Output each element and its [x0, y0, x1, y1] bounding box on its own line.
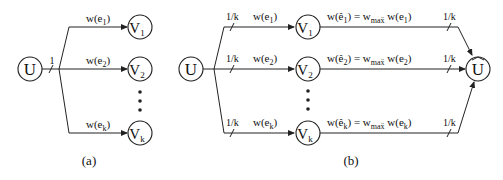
split-label-a: 1 [50, 55, 55, 66]
split-label-bk: 1/k [226, 117, 239, 128]
node-u-label: U [24, 60, 36, 79]
edge-label-e2-a: w(e2) [86, 54, 111, 69]
split-label-b1: 1/k [226, 11, 239, 22]
merge-label-b2: 1/k [443, 53, 456, 64]
diagram-canvas: U 1 w(e1) w(e2) w(ek) V1 V2 Vk [0, 0, 503, 180]
merge-label-bk: 1/k [443, 117, 456, 128]
out-label-1: w(ê1) = wmaẍ w(e1) [327, 10, 412, 25]
svg-text:U: U [472, 60, 484, 79]
caption-b: (b) [343, 153, 358, 168]
edge-label-ek-a: w(ek) [86, 118, 111, 133]
edge-label-e2-b: w(e2) [253, 52, 278, 67]
node-v1-b: V1 [296, 15, 320, 39]
node-u-label: U [185, 60, 197, 79]
node-v2-a: V2 [128, 57, 152, 81]
ellipsis-a [138, 90, 142, 112]
ellipsis-b [306, 89, 310, 111]
node-u-b: U [179, 57, 203, 81]
node-vk-a: Vk [128, 121, 152, 145]
edge-label-e1-a: w(e1) [86, 12, 111, 27]
edge-label-e1-b: w(e1) [253, 10, 278, 25]
caption-a: (a) [82, 153, 96, 168]
out-label-2: w(ê2) = wmaẍ w(e2) [327, 52, 412, 67]
node-v1-a: V1 [128, 15, 152, 39]
panel-b: U 1/k 1/k 1/k w(e1) w(e2) w(ek) V1 V2 [179, 10, 490, 168]
out-label-k: w(êk) = wmaẍ w(ek) [327, 116, 412, 131]
split-label-b2: 1/k [226, 53, 239, 64]
edge-label-ek-b: w(ek) [253, 116, 278, 131]
node-v2-b: V2 [296, 57, 320, 81]
node-uhat: U [466, 57, 490, 81]
merge-label-b1: 1/k [443, 11, 456, 22]
node-vk-b: Vk [296, 121, 320, 145]
node-u-a: U [18, 57, 42, 81]
panel-a: U 1 w(e1) w(e2) w(ek) V1 V2 Vk [18, 12, 152, 168]
edge-v1-to-uhat [320, 27, 472, 55]
